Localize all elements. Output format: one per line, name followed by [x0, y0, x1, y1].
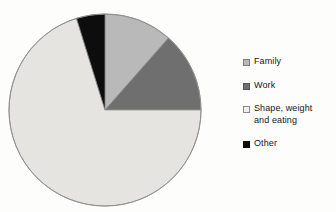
- legend-item-4[interactable]: Other: [243, 138, 335, 150]
- legend-item-label: Shape, weight and eating: [254, 103, 335, 126]
- legend-item-label: Other: [254, 138, 277, 150]
- legend-item-1[interactable]: Family: [243, 56, 335, 68]
- pie-chart-plot-area: FamilyWorkShape, weight and eatingOther: [7, 12, 203, 208]
- legend-swatch-icon-1: [243, 59, 250, 66]
- legend-swatch-icon-4: [243, 141, 250, 148]
- legend-item-3[interactable]: Shape, weight and eating: [243, 103, 335, 126]
- legend-swatch-icon-2: [243, 83, 250, 90]
- pie-chart-svg: FamilyWorkShape, weight and eatingOther: [7, 12, 203, 208]
- pie-slice-group: FamilyWorkShape, weight and eatingOther: [9, 14, 201, 206]
- chart-legend: FamilyWorkShape, weight and eatingOther: [243, 56, 335, 150]
- legend-item-label: Work: [254, 80, 275, 92]
- legend-item-2[interactable]: Work: [243, 80, 335, 92]
- legend-swatch-icon-3: [243, 106, 250, 113]
- pie-chart-figure: FamilyWorkShape, weight and eatingOther …: [0, 0, 336, 212]
- legend-item-label: Family: [254, 56, 281, 68]
